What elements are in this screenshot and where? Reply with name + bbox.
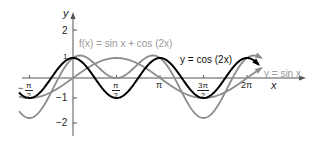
x-tick-label-pi-over-2: π 2 bbox=[112, 81, 120, 100]
y-axis-arrow-icon bbox=[71, 12, 76, 19]
x-tick-label-2pi: 2π bbox=[241, 81, 252, 90]
y-tick-label-neg2: −2 bbox=[56, 118, 67, 128]
y-tick-label-1: 1 bbox=[63, 53, 67, 61]
x-tick-label-3pi-over-2: 3π 2 bbox=[197, 81, 209, 100]
sin-curve-label: y = sin x bbox=[264, 69, 301, 79]
f-curve-label: f(x) = sin x + cos (2x) bbox=[79, 39, 172, 49]
y-tick-label-2: 2 bbox=[62, 26, 68, 36]
y-tick-label-neg1: −1 bbox=[56, 93, 67, 103]
frac-numerator: π bbox=[25, 81, 33, 91]
frac-denominator: 2 bbox=[197, 91, 209, 100]
frac-numerator: 3π bbox=[197, 81, 209, 91]
frac-numerator: π bbox=[112, 81, 120, 91]
x-tick-label-neg-pi-over-2: π 2 bbox=[25, 81, 33, 100]
curve-arrow-icon bbox=[255, 53, 263, 59]
x-tick-label-pi: π bbox=[156, 81, 162, 90]
x-axis-label: x bbox=[271, 80, 277, 91]
y-axis-label: y bbox=[63, 8, 69, 19]
cos-curve-label: y = cos (2x) bbox=[180, 55, 232, 65]
frac-denominator: 2 bbox=[25, 91, 33, 100]
x-tick-label-neg-pi-over-2-sign: − bbox=[18, 84, 23, 93]
frac-denominator: 2 bbox=[112, 91, 120, 100]
